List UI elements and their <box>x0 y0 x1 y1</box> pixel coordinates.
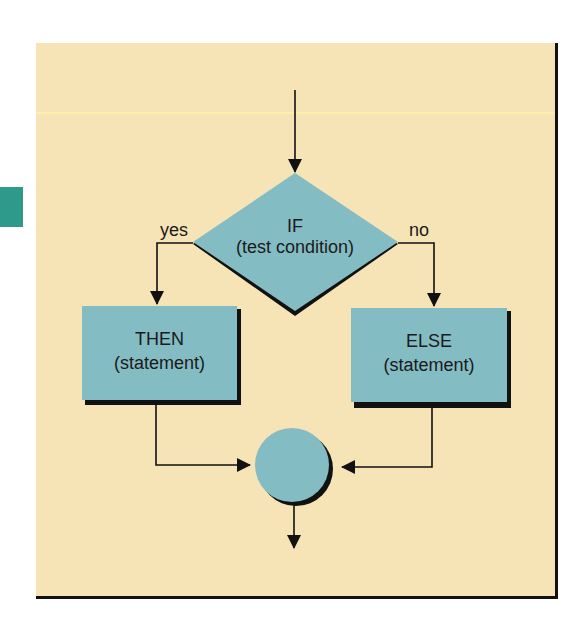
no-branch-line <box>398 243 434 306</box>
yes-branch-line <box>157 243 193 304</box>
then-to-join-line <box>156 404 250 465</box>
else-label-line2: (statement) <box>351 354 507 376</box>
else-to-join-line <box>342 407 432 467</box>
flowchart <box>0 0 581 629</box>
then-label-line1: THEN <box>82 328 237 350</box>
decision-label-line1: IF <box>245 215 345 237</box>
else-label-line1: ELSE <box>351 330 507 352</box>
join-circle <box>255 428 329 502</box>
then-label-line2: (statement) <box>82 352 237 374</box>
no-label: no <box>404 219 434 241</box>
yes-label: yes <box>156 219 192 241</box>
decision-label-line2: (test condition) <box>215 236 375 258</box>
